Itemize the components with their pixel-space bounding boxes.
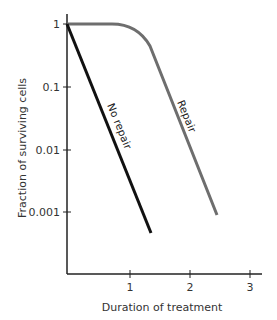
y-axis-title: Fraction of surviving cells: [16, 78, 29, 218]
x-tick-label-2: 2: [187, 281, 194, 294]
series-no-repair-line: [67, 24, 151, 233]
x-axis-title: Duration of treatment: [102, 301, 223, 314]
y-tick-label-0.001: 0.001: [29, 206, 61, 219]
y-tick-label-1: 1: [53, 18, 60, 31]
x-tick-label-3: 3: [247, 281, 254, 294]
y-tick-label-0.01: 0.01: [36, 144, 61, 157]
y-ticks: 1 0.1 0.01 0.001: [29, 18, 72, 219]
x-tick-label-1: 1: [127, 281, 134, 294]
survival-curve-chart: 1 0.1 0.01 0.001 1 2 3 Duration of treat…: [0, 0, 277, 320]
y-tick-label-0.1: 0.1: [43, 81, 61, 94]
